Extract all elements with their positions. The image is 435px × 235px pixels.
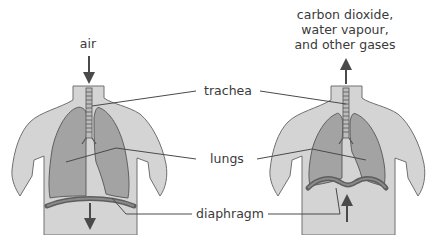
gases-label-line-3: and other gases (294, 37, 395, 52)
breathing-diagram: air carbon dioxide, water vapour, and ot… (0, 0, 435, 235)
gases-label-line-1: carbon dioxide, (297, 7, 393, 22)
air-label: air (80, 36, 97, 51)
right-gases-arrow-up-icon (340, 58, 352, 84)
gases-label-line-2: water vapour, (301, 22, 388, 37)
lungs-label: lungs (210, 151, 244, 166)
left-air-arrow-down-icon (83, 56, 95, 84)
diaphragm-label: diaphragm (196, 206, 264, 221)
right-figure-exhale (270, 58, 425, 235)
left-figure-inhale (12, 56, 167, 235)
trachea-label: trachea (204, 83, 252, 98)
